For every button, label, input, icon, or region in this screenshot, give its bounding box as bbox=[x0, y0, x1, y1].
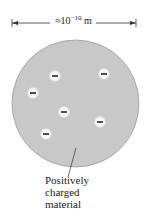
scale-label: ≈10−10 m bbox=[0, 14, 147, 26]
electron bbox=[57, 105, 71, 119]
electron bbox=[39, 127, 53, 141]
electron bbox=[48, 69, 62, 83]
electron bbox=[97, 67, 111, 81]
caption: Positively charged material bbox=[45, 174, 89, 210]
positive-sphere bbox=[12, 40, 139, 167]
scale-unit: m bbox=[82, 15, 92, 26]
scale-value: ≈10 bbox=[55, 15, 71, 26]
electron bbox=[26, 86, 40, 100]
scale-exponent: −10 bbox=[71, 14, 82, 22]
caption-line: charged bbox=[45, 186, 89, 198]
electron bbox=[93, 115, 107, 129]
caption-line: Positively bbox=[45, 174, 89, 186]
caption-line: material bbox=[45, 198, 89, 210]
